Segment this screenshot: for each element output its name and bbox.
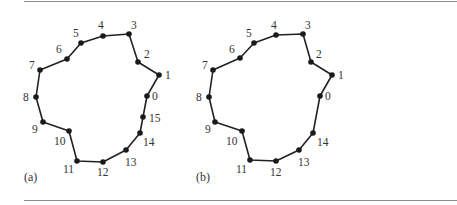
vertex-label: 9 [205, 123, 211, 135]
vertex-label: 4 [271, 19, 277, 31]
vertex-point [300, 31, 306, 37]
vertex-label: 11 [236, 163, 247, 175]
vertex-point [329, 72, 335, 78]
vertex-label: 11 [63, 163, 74, 175]
vertex-label: 5 [73, 27, 79, 39]
vertex-point [273, 158, 279, 164]
vertex-label: 12 [270, 166, 282, 178]
vertex-point [40, 119, 46, 125]
vertex-label: 13 [298, 156, 310, 168]
vertex-label: 6 [56, 43, 62, 55]
vertex-point [212, 119, 218, 125]
vertex-point [100, 159, 106, 165]
panel-b: 01234567891011121314 [196, 19, 344, 178]
vertex-point [37, 67, 43, 73]
vertex-label: 0 [152, 90, 158, 102]
vertex-label: 10 [226, 135, 238, 147]
vertex-point [33, 94, 39, 100]
vertex-point [310, 130, 316, 136]
vertex-point [273, 32, 279, 38]
vertex-label: 8 [23, 91, 29, 103]
vertex-point [239, 128, 245, 134]
vertex-point [206, 94, 212, 100]
vertex-point [123, 147, 129, 153]
vertex-label: 3 [305, 19, 311, 31]
vertex-point [156, 72, 162, 78]
vertex-label: 0 [325, 90, 331, 102]
vertex-label: 1 [165, 69, 171, 81]
vertex-label: 6 [229, 43, 235, 55]
vertex-point [64, 56, 70, 62]
vertex-label: 7 [202, 59, 208, 71]
panel-a: 0123456789101112131415 [23, 19, 171, 178]
vertex-point [126, 31, 132, 37]
vertex-label: 1 [338, 69, 344, 81]
vertex-label: 14 [317, 136, 329, 148]
vertex-point [66, 128, 72, 134]
vertex-label: 13 [125, 156, 137, 168]
vertex-label: 3 [131, 19, 137, 31]
vertex-label: 2 [144, 48, 150, 60]
vertex-label: 14 [143, 136, 155, 148]
vertex-point [135, 59, 141, 65]
vertex-label: 8 [196, 91, 202, 103]
vertex-point [247, 157, 253, 163]
vertex-label: 9 [32, 123, 38, 135]
vertex-point [78, 40, 84, 46]
vertex-label: 4 [98, 19, 104, 31]
vertex-label: 5 [246, 27, 252, 39]
vertex-label: 10 [54, 135, 66, 147]
vertex-point [237, 55, 243, 61]
vertex-point [74, 158, 80, 164]
vertex-point [100, 33, 106, 39]
vertex-point [317, 93, 323, 99]
vertex-point [308, 59, 314, 65]
vertex-label: 2 [316, 48, 322, 60]
vertex-point [210, 67, 216, 73]
vertex-label: 7 [29, 59, 35, 71]
vertex-point [140, 114, 146, 120]
panel-b-label: (b) [196, 170, 210, 184]
vertex-point [251, 40, 257, 46]
vertex-point [144, 93, 150, 99]
polygon-figure: 0123456789101112131415 01234567891011121… [0, 0, 457, 205]
panel-a-label: (a) [24, 170, 37, 184]
vertex-point [137, 130, 143, 136]
vertex-point [296, 147, 302, 153]
vertex-label: 12 [97, 166, 109, 178]
vertex-label: 15 [149, 112, 161, 124]
